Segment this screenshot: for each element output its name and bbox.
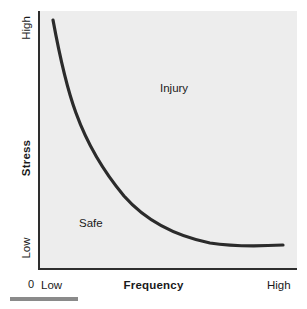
footer-rule — [10, 297, 78, 301]
x-axis-tick-high: High — [267, 279, 291, 291]
stress-frequency-chart: High Stress Low 0 Low Frequency High Inj… — [0, 0, 307, 309]
region-label-injury: Injury — [160, 82, 188, 94]
curve-layer — [0, 0, 307, 309]
x-axis-title: Frequency — [0, 279, 307, 291]
y-axis-title: Stress — [20, 121, 32, 195]
region-label-safe: Safe — [79, 217, 103, 229]
y-axis-tick-low: Low — [20, 218, 32, 278]
y-axis-tick-high: High — [20, 0, 32, 58]
threshold-curve — [53, 20, 283, 246]
